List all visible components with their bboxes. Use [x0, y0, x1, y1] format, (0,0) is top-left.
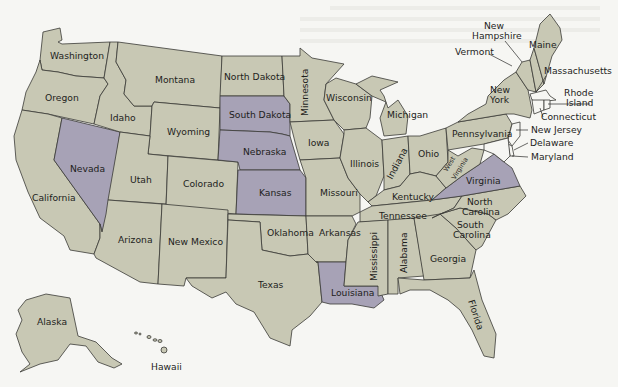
label-maryland: Maryland [531, 151, 574, 162]
label-georgia: Georgia [430, 253, 466, 264]
label-pennsylvania: Pennsylvania [452, 128, 512, 139]
label-vermont: Vermont [455, 46, 494, 57]
label-iowa: Iowa [308, 137, 329, 148]
label-oregon: Oregon [45, 92, 79, 103]
label-utah: Utah [130, 174, 152, 185]
label-new-jersey: New Jersey [531, 124, 583, 135]
label-kansas: Kansas [259, 187, 292, 198]
label-montana: Montana [155, 74, 195, 85]
label-washington: Washington [50, 50, 104, 61]
label-alaska: Alaska [37, 316, 67, 327]
label-kentucky: Kentucky [392, 191, 435, 202]
label-south-dakota: South Dakota [229, 109, 291, 120]
label-colorado: Colorado [183, 178, 224, 189]
label-arkansas: Arkansas [319, 227, 361, 238]
label-rhode-island-2: Island [566, 97, 593, 108]
state-hawaii[interactable] [135, 332, 168, 353]
label-louisiana: Louisiana [331, 287, 374, 298]
label-new-york-2: York [489, 94, 510, 105]
label-north-carolina-2: Carolina [462, 206, 500, 217]
label-mississippi: Mississippi [368, 232, 379, 281]
state-rhode-island[interactable] [544, 100, 550, 110]
label-south-carolina-2: Carolina [453, 229, 491, 240]
label-tennessee: Tennessee [378, 210, 427, 221]
us-map: Washington Oregon California Idaho Nevad… [0, 0, 618, 387]
label-maine: Maine [529, 39, 557, 50]
label-hawaii: Hawaii [151, 361, 182, 372]
label-nebraska: Nebraska [243, 146, 286, 157]
label-michigan: Michigan [387, 109, 428, 120]
label-missouri: Missouri [320, 187, 358, 198]
label-north-dakota: North Dakota [224, 71, 285, 82]
label-new-mexico: New Mexico [168, 236, 223, 247]
label-idaho: Idaho [110, 112, 136, 123]
label-connecticut: Connecticut [541, 111, 596, 122]
state-alaska[interactable] [16, 294, 122, 372]
label-illinois: Illinois [350, 158, 379, 169]
label-arizona: Arizona [118, 234, 153, 245]
label-alabama: Alabama [398, 232, 409, 273]
label-wisconsin: Wisconsin [326, 92, 372, 103]
label-wyoming: Wyoming [167, 126, 210, 137]
label-new-hampshire-2: Hampshire [472, 30, 522, 41]
label-nevada: Nevada [70, 163, 105, 174]
label-virginia: Virginia [466, 175, 501, 186]
label-massachusetts: Massachusetts [544, 65, 612, 76]
label-delaware: Delaware [530, 137, 574, 148]
label-ohio: Ohio [418, 148, 440, 159]
label-texas: Texas [257, 279, 284, 290]
label-minnesota: Minnesota [299, 69, 310, 116]
label-oklahoma: Oklahoma [267, 227, 314, 238]
label-california: California [32, 192, 76, 203]
